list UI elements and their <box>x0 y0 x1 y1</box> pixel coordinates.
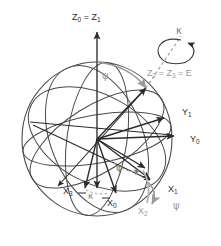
label-y0: Y0 <box>190 135 200 144</box>
label-phi: φ <box>116 163 123 173</box>
euler-angle-sphere-figure: Z0 = Z1 κ Z2 = Z3 = E ψ Y1 Y0 φ X3 κ X0 … <box>0 0 221 246</box>
axis-vectors-group <box>85 32 174 193</box>
label-x3: X3 <box>63 187 73 196</box>
axis-vector-x0 <box>97 139 116 193</box>
label-z0-eq-z1: Z0 = Z1 <box>72 13 101 22</box>
label-kappa-top: κ <box>176 26 182 36</box>
kappa-spin-arc <box>158 39 194 64</box>
label-z2-eq-z3-eq-e: Z2 = Z3 = E <box>147 69 192 78</box>
sphere-diagram-canvas <box>0 0 221 246</box>
label-y1: Y1 <box>182 108 192 117</box>
kappa-group <box>146 36 194 88</box>
label-psi-top: ψ <box>102 71 109 81</box>
label-kappa-bottom: κ <box>88 192 93 201</box>
axis-vector-y0 <box>97 136 174 139</box>
label-x2: X2 <box>138 207 148 216</box>
kappa-dashed-axis <box>146 36 181 88</box>
label-psi-bottom: ψ <box>173 201 180 211</box>
label-x1: X1 <box>168 185 178 194</box>
label-x0: X0 <box>107 199 117 208</box>
